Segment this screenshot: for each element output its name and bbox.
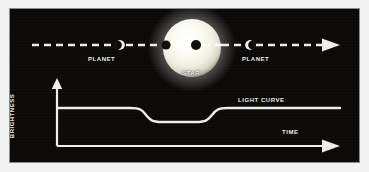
planet-silhouette-center bbox=[191, 40, 201, 50]
light-curve-path bbox=[58, 108, 340, 122]
diagram-panel: PLANET PLANET STAR LIGHT CURVE TIME BRIG… bbox=[9, 8, 360, 163]
figure-root: PLANET PLANET STAR LIGHT CURVE TIME BRIG… bbox=[0, 0, 369, 172]
brightness-axis-arrow-icon bbox=[52, 78, 62, 89]
diagram-vector-layer bbox=[10, 9, 359, 162]
crescent-planet-right bbox=[245, 40, 257, 50]
label-light-curve: LIGHT CURVE bbox=[238, 97, 285, 103]
label-planet-right: PLANET bbox=[242, 56, 269, 62]
label-brightness-axis: BRIGHTNESS bbox=[9, 94, 15, 138]
label-star: STAR bbox=[182, 70, 200, 76]
label-time-axis: TIME bbox=[282, 129, 299, 135]
time-axis-arrow-icon bbox=[322, 140, 340, 153]
diagram-scene: PLANET PLANET STAR LIGHT CURVE TIME BRIG… bbox=[10, 9, 359, 162]
label-planet-left: PLANET bbox=[88, 56, 115, 62]
planet-silhouette-left bbox=[161, 40, 170, 49]
orbit-arrow-icon bbox=[322, 39, 340, 52]
crescent-planet-left bbox=[113, 40, 125, 50]
